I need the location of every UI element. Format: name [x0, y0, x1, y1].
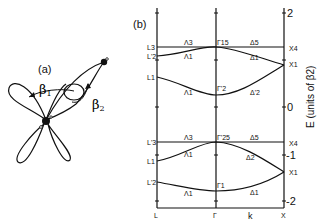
label-X1-lower: X1: [289, 169, 298, 176]
label-L2-prime-lower: L'2: [147, 179, 156, 186]
label-Gamma1: Γ1: [217, 182, 225, 189]
label-L1: L1: [147, 74, 155, 81]
label-Delta1-lower: Δ1: [250, 189, 259, 196]
y-tick-0: 0: [287, 101, 293, 113]
label-Lambda1-lower-a: Λ1: [184, 151, 193, 158]
label-Delta1: Δ1: [250, 54, 259, 61]
panel-b: (b) 2 0 -1 -2 E (units of β2) L Γ k X: [133, 7, 316, 221]
label-L3-prime: L'3: [147, 139, 156, 146]
label-Delta5: Δ5: [250, 39, 259, 46]
label-Delta2-lower: Δ2: [246, 154, 255, 161]
label-X1: X1: [289, 61, 298, 68]
label-Delta5-lower: Δ5: [250, 134, 259, 141]
y-axis-label: E (units of β2): [305, 66, 316, 128]
panel-a-label: (a): [38, 63, 51, 75]
panel-b-label: (b): [133, 18, 146, 30]
label-L2-prime: L'2: [147, 53, 156, 60]
x-tick-X: X: [281, 212, 286, 219]
label-Gamma25-prime: Γ'25: [217, 134, 230, 141]
x-axis-label-k: k: [248, 211, 253, 221]
label-Lambda1-b: Λ1: [184, 89, 193, 96]
label-X4-lower: X4: [289, 140, 298, 147]
y-tick-2: 2: [287, 7, 293, 19]
label-L3: L3: [147, 44, 155, 51]
x-tick-L: L: [154, 212, 158, 219]
y-tick-minus1: -1: [286, 149, 296, 161]
label-Gamma15: Γ15: [217, 39, 229, 46]
label-Lambda3-lower: Λ3: [184, 134, 193, 141]
lower-band-labels: L'3 L1 L'2 Γ'25 Γ1 X4 X1 Λ3 Λ1 Λ1 Δ5 Δ2 …: [147, 134, 298, 197]
label-Lambda3: Λ3: [184, 39, 193, 46]
panel-a: (a) β1 β2: [9, 58, 109, 163]
label-Lambda1-a: Λ1: [184, 53, 193, 60]
center-atom-icon: [42, 117, 50, 125]
beta1-label: β1: [39, 82, 52, 98]
figure-canvas: (a) β1 β2 (b): [0, 0, 322, 223]
axes-frame: [157, 8, 284, 208]
label-Lambda1-lower-b: Λ1: [184, 190, 193, 197]
y-tick-minus2: -2: [286, 195, 296, 207]
beta2-label: β2: [92, 97, 105, 113]
label-Delta2-prime: Δ'2: [250, 89, 260, 96]
label-X4: X4: [289, 45, 298, 52]
label-L1-lower: L1: [147, 158, 155, 165]
x-tick-Gamma: Γ: [213, 212, 217, 219]
label-Gamma2-prime: Γ'2: [217, 85, 226, 92]
